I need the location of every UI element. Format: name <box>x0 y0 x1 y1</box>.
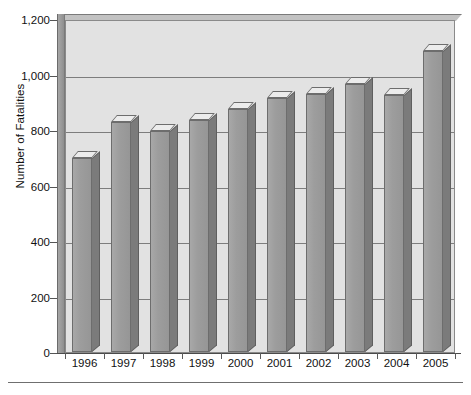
x-axis-tick-mark <box>338 353 339 359</box>
y-axis-tick-labels: 02004006008001,0001,200 <box>0 0 50 395</box>
bar-face <box>345 84 365 352</box>
bar-column <box>72 158 92 352</box>
y-axis-tick-mark <box>50 298 57 299</box>
x-axis-tick-mark <box>260 353 261 359</box>
bar-side <box>287 91 295 352</box>
bar-column <box>306 94 326 352</box>
x-axis-tick-mark <box>104 353 105 359</box>
y-axis-tick-label: 800 <box>2 125 50 137</box>
bar-column <box>267 98 287 352</box>
chart-left-wall <box>57 14 65 353</box>
y-axis-tick-label: 1,200 <box>2 14 50 26</box>
bar-face <box>267 98 287 352</box>
bar-face <box>189 120 209 352</box>
x-axis-tick-mark <box>143 353 144 359</box>
bar-column <box>150 131 170 352</box>
x-axis-tick-mark <box>299 353 300 359</box>
x-axis-tick-mark <box>65 353 66 359</box>
bar-face <box>228 109 248 352</box>
bar-column <box>423 51 443 352</box>
bar-face <box>150 131 170 352</box>
bar-column <box>228 109 248 352</box>
bar-side <box>170 125 178 352</box>
y-axis-tick-label: 600 <box>2 181 50 193</box>
gridline <box>66 77 454 78</box>
y-axis-tick-label: 400 <box>2 236 50 248</box>
x-axis-tick-mark <box>221 353 222 359</box>
y-axis-tick-mark <box>50 242 57 243</box>
bar-face <box>111 122 131 352</box>
y-axis-tick-mark <box>50 76 57 77</box>
bar-column <box>111 122 131 352</box>
x-axis-tick-mark <box>182 353 183 359</box>
bar-side <box>209 114 217 352</box>
bar-side <box>248 102 256 352</box>
plot-area <box>65 20 455 353</box>
bottom-divider <box>8 382 463 383</box>
x-axis-tick-mark <box>416 353 417 359</box>
bar-side <box>365 78 373 352</box>
bar-side <box>131 115 139 352</box>
bar-column <box>384 95 404 352</box>
bar-column <box>345 84 365 352</box>
x-axis-tick-mark <box>455 353 456 359</box>
x-axis-tick-label: 2005 <box>406 357 466 369</box>
bar-side <box>92 151 100 352</box>
bar-face <box>423 51 443 352</box>
y-axis-tick-label: 1,000 <box>2 70 50 82</box>
bar-chart: Number of Fatalities 02004006008001,0001… <box>0 0 471 395</box>
y-axis-tick-mark <box>50 20 57 21</box>
y-axis-tick-label: 200 <box>2 292 50 304</box>
x-axis-line <box>57 353 461 354</box>
y-axis-tick-mark <box>50 131 57 132</box>
bar-column <box>189 120 209 352</box>
bar-side <box>443 44 451 352</box>
x-axis-tick-mark <box>377 353 378 359</box>
bar-face <box>72 158 92 352</box>
y-axis-tick-mark <box>50 187 57 188</box>
y-axis-tick-mark <box>50 353 57 354</box>
bar-side <box>326 87 334 352</box>
bar-face <box>384 95 404 352</box>
x-axis-tick-labels: 1996199719981999200020012002200320042005 <box>0 357 471 377</box>
bar-side <box>404 89 412 352</box>
bar-face <box>306 94 326 352</box>
